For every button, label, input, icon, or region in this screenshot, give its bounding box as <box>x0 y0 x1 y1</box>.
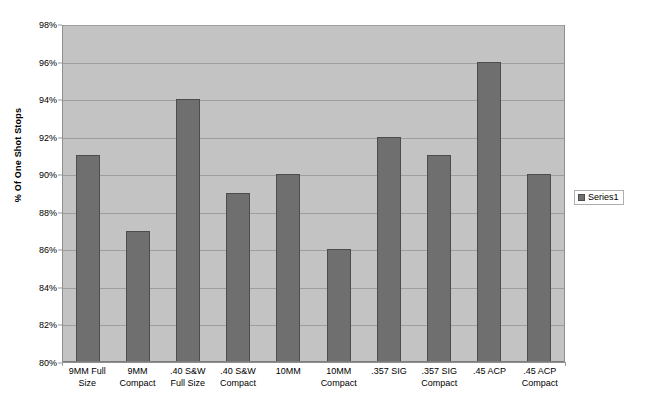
bar[interactable] <box>377 137 401 362</box>
y-axis-tick-label: 92% <box>39 133 57 142</box>
x-axis-tick-label: 10MM Compact <box>313 366 363 389</box>
legend: Series1 <box>574 190 624 205</box>
bar-slot <box>414 26 464 362</box>
bar[interactable] <box>477 62 501 362</box>
legend-swatch-series1 <box>578 194 585 201</box>
bar[interactable] <box>527 174 551 362</box>
bar-slot <box>63 26 113 362</box>
x-axis-tick-labels: 9MM Full Size9MM Compact.40 S&W Full Siz… <box>62 366 565 389</box>
bar-slot <box>514 26 564 362</box>
y-axis-tick-label: 90% <box>39 171 57 180</box>
x-axis-tick-label: 9MM Compact <box>112 366 162 389</box>
x-axis-tick-label: .45 ACP <box>464 366 514 389</box>
bar[interactable] <box>327 249 351 362</box>
x-axis-tick-label: .40 S&W Compact <box>213 366 263 389</box>
y-axis-tick-label: 84% <box>39 283 57 292</box>
bar-slot <box>464 26 514 362</box>
legend-label-series1: Series1 <box>588 193 619 202</box>
bar[interactable] <box>76 155 100 362</box>
bar-slot <box>313 26 363 362</box>
bar[interactable] <box>176 99 200 362</box>
x-axis-tick-label: .357 SIG Compact <box>414 366 464 389</box>
x-axis-tick-label: .40 S&W Full Size <box>163 366 213 389</box>
bars-container <box>63 26 564 362</box>
x-axis-tick-label: 10MM <box>263 366 313 389</box>
x-axis-line <box>63 361 564 362</box>
bar-chart: % Of One Shot Stops 80%82%84%86%88%90%92… <box>0 0 649 419</box>
bar[interactable] <box>226 193 250 362</box>
bar-slot <box>113 26 163 362</box>
bar-slot <box>263 26 313 362</box>
bar-slot <box>163 26 213 362</box>
bar-slot <box>213 26 263 362</box>
y-axis-tick-label: 94% <box>39 96 57 105</box>
bar[interactable] <box>427 155 451 362</box>
y-axis-tick-labels: 80%82%84%86%88%90%92%94%96%98% <box>22 25 62 363</box>
y-axis-tick-label: 86% <box>39 246 57 255</box>
y-axis-tick-label: 98% <box>39 21 57 30</box>
x-axis-tick-mark <box>565 362 566 366</box>
y-axis-tick-label: 96% <box>39 58 57 67</box>
x-axis-tick-label: 9MM Full Size <box>62 366 112 389</box>
bar-slot <box>364 26 414 362</box>
y-axis-tick-label: 88% <box>39 208 57 217</box>
y-axis-tick-label: 82% <box>39 321 57 330</box>
x-axis-tick-label: .357 SIG <box>364 366 414 389</box>
y-axis-tick-label: 80% <box>39 359 57 368</box>
bar[interactable] <box>126 231 150 362</box>
x-axis-tick-label: .45 ACP Compact <box>515 366 565 389</box>
x-axis-tick-mark <box>62 362 63 366</box>
plot-area <box>62 25 565 363</box>
bar[interactable] <box>276 174 300 362</box>
